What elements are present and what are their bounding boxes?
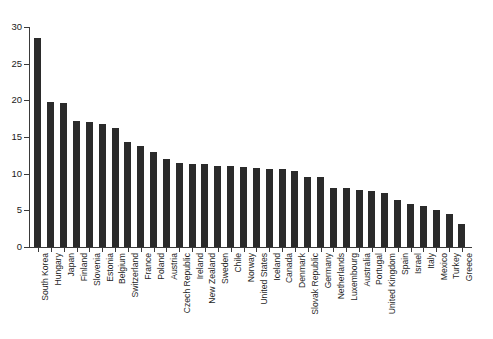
y-tick-mark xyxy=(24,247,29,248)
x-tick-label: Netherlands xyxy=(337,253,346,299)
x-tick-mark xyxy=(51,248,52,252)
x-tick-mark xyxy=(295,248,296,252)
bar xyxy=(407,204,414,247)
x-tick-label: Portugal xyxy=(375,253,384,285)
bar xyxy=(368,191,375,247)
bar xyxy=(433,210,440,247)
x-tick-mark xyxy=(218,248,219,252)
x-tick-label: Estonia xyxy=(106,253,115,282)
x-tick-label: Mexico xyxy=(440,253,449,280)
x-tick-label: Spain xyxy=(401,253,410,275)
x-tick-mark xyxy=(102,248,103,252)
x-tick-label: France xyxy=(144,253,153,280)
bar xyxy=(124,142,131,247)
bar xyxy=(176,163,183,247)
y-tick-mark xyxy=(24,174,29,175)
x-tick-label: Czech Republic xyxy=(183,253,192,313)
bar xyxy=(356,190,363,247)
x-tick-mark xyxy=(333,248,334,252)
y-tick-mark xyxy=(24,27,29,28)
x-tick-label: Denmark xyxy=(298,253,307,288)
bar xyxy=(189,164,196,247)
x-tick-label: Chile xyxy=(234,253,243,273)
bar xyxy=(394,200,401,247)
x-tick-mark xyxy=(411,248,412,252)
x-tick-label: United Kingdom xyxy=(388,253,397,314)
bar xyxy=(227,166,234,247)
x-axis-labels: South KoreaHungaryJapanFinlandSloveniaEs… xyxy=(0,253,493,339)
x-tick-label: Luxembourg xyxy=(350,253,359,301)
bars-layer xyxy=(30,27,470,247)
bar xyxy=(381,193,388,247)
x-tick-mark xyxy=(462,248,463,252)
bar xyxy=(60,103,67,247)
x-tick-label: South Korea xyxy=(41,253,50,301)
bar xyxy=(458,224,465,247)
y-tick-label: 0 xyxy=(0,242,22,252)
x-tick-mark xyxy=(385,248,386,252)
y-tick-mark xyxy=(24,64,29,65)
bar xyxy=(304,177,311,247)
bar xyxy=(279,169,286,247)
x-tick-label: Japan xyxy=(67,253,76,276)
bar xyxy=(291,171,298,247)
y-tick-label: 10 xyxy=(0,169,22,179)
bar xyxy=(47,102,54,247)
x-tick-mark xyxy=(359,248,360,252)
x-tick-mark xyxy=(64,248,65,252)
bar xyxy=(330,188,337,247)
bar xyxy=(317,177,324,247)
x-tick-mark xyxy=(282,248,283,252)
x-axis-line xyxy=(29,247,472,248)
bar xyxy=(266,169,273,247)
bar xyxy=(446,214,453,247)
x-tick-mark xyxy=(89,248,90,252)
bar xyxy=(99,124,106,247)
x-tick-mark xyxy=(423,248,424,252)
y-tick-mark xyxy=(24,210,29,211)
bar xyxy=(240,167,247,247)
x-tick-label: Poland xyxy=(157,253,166,280)
y-tick-label: 15 xyxy=(0,132,22,142)
x-tick-mark xyxy=(321,248,322,252)
x-tick-mark xyxy=(166,248,167,252)
x-tick-mark xyxy=(244,248,245,252)
x-tick-label: Ireland xyxy=(196,253,205,279)
x-tick-mark xyxy=(308,248,309,252)
bar xyxy=(73,121,80,247)
x-tick-mark xyxy=(38,248,39,252)
y-tick-label: 30 xyxy=(0,22,22,32)
y-tick-label: 5 xyxy=(0,205,22,215)
y-tick-mark xyxy=(24,100,29,101)
x-tick-label: Finland xyxy=(80,253,89,281)
x-tick-mark xyxy=(205,248,206,252)
x-tick-mark xyxy=(256,248,257,252)
bar xyxy=(112,128,119,247)
bar xyxy=(150,152,157,247)
x-tick-label: Iceland xyxy=(273,253,282,281)
x-tick-mark xyxy=(179,248,180,252)
bar xyxy=(86,122,93,247)
x-tick-label: Austria xyxy=(170,253,179,280)
x-tick-mark xyxy=(449,248,450,252)
x-tick-label: Australia xyxy=(363,253,372,286)
y-tick-mark xyxy=(24,137,29,138)
x-tick-mark xyxy=(231,248,232,252)
bar xyxy=(163,159,170,247)
x-tick-mark xyxy=(269,248,270,252)
x-tick-label: Slovak Republic xyxy=(311,253,320,315)
y-tick-label: 20 xyxy=(0,95,22,105)
x-tick-mark xyxy=(141,248,142,252)
x-tick-label: Canada xyxy=(285,253,294,283)
y-tick-label: 25 xyxy=(0,59,22,69)
x-tick-label: Turkey xyxy=(452,253,461,279)
bar xyxy=(201,164,208,247)
x-tick-mark xyxy=(346,248,347,252)
x-tick-mark xyxy=(192,248,193,252)
x-tick-label: Italy xyxy=(427,253,436,269)
bar xyxy=(253,168,260,247)
bar xyxy=(343,188,350,247)
x-tick-label: Slovenia xyxy=(93,253,102,286)
bar xyxy=(137,146,144,247)
x-tick-label: United States xyxy=(260,253,269,305)
